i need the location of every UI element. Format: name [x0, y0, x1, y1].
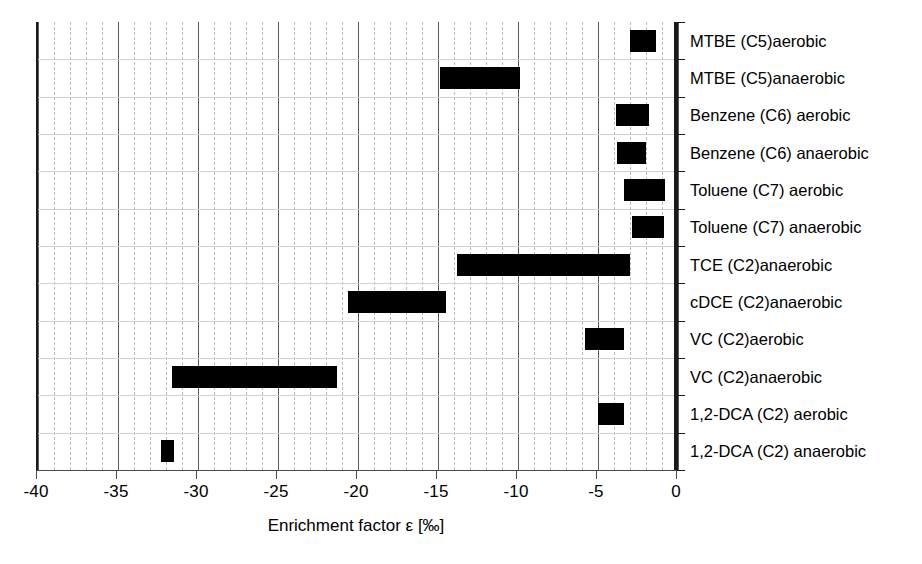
- right-axis-tick: [676, 246, 685, 247]
- x-axis-tick: [516, 470, 517, 479]
- plot-area: [36, 22, 676, 470]
- category-label: Benzene (C6) aerobic: [690, 107, 851, 124]
- x-axis-tick: [436, 470, 437, 479]
- right-axis-tick: [676, 321, 685, 322]
- right-axis-tick: [676, 395, 685, 396]
- right-axis-tick: [676, 433, 685, 434]
- x-axis-tick: [676, 470, 677, 479]
- right-axis-tick: [676, 22, 685, 23]
- x-axis-title: Enrichment factor ε [‰]: [36, 516, 676, 536]
- x-axis-tick-label: -35: [103, 482, 128, 502]
- category-label: Toluene (C7) anaerobic: [690, 219, 862, 236]
- right-axis-tick: [676, 134, 685, 135]
- x-axis-tick: [36, 470, 37, 479]
- x-axis-tick: [116, 470, 117, 479]
- right-axis-tick: [676, 283, 685, 284]
- x-axis-tick-label: -25: [263, 482, 288, 502]
- category-label: VC (C2)aerobic: [690, 331, 804, 348]
- right-axis-tick: [676, 59, 685, 60]
- x-axis-tick: [356, 470, 357, 479]
- x-axis-tick-label: -20: [343, 482, 368, 502]
- category-label: 1,2-DCA (C2) anaerobic: [690, 443, 866, 460]
- bar-range: [348, 291, 446, 313]
- right-axis-tick: [676, 209, 685, 210]
- x-axis-tick: [596, 470, 597, 479]
- bar-range: [585, 328, 623, 350]
- right-axis-tick: [676, 97, 685, 98]
- bar-range: [161, 440, 174, 462]
- category-label: 1,2-DCA (C2) aerobic: [690, 406, 848, 423]
- bar-range: [457, 254, 630, 276]
- right-axis-tick: [676, 470, 685, 471]
- bars-layer: [38, 22, 674, 470]
- x-axis-tick: [196, 470, 197, 479]
- x-axis-tick-label: -10: [503, 482, 528, 502]
- category-labels: MTBE (C5)aerobicMTBE (C5)anaerobicBenzen…: [690, 22, 922, 470]
- bar-range: [598, 403, 624, 425]
- x-axis-tick-label: -40: [23, 482, 48, 502]
- category-label: cDCE (C2)anaerobic: [690, 294, 842, 311]
- bar-range: [617, 142, 646, 164]
- category-label: MTBE (C5)anaerobic: [690, 70, 845, 87]
- x-axis-tick-label: -5: [588, 482, 604, 502]
- category-label: TCE (C2)anaerobic: [690, 257, 832, 274]
- bar-range: [616, 104, 650, 126]
- bar-range: [632, 216, 664, 238]
- category-label: MTBE (C5)aerobic: [690, 33, 827, 50]
- bar-range: [630, 30, 656, 52]
- x-axis-tick-label: -15: [423, 482, 448, 502]
- right-axis-tick: [676, 171, 685, 172]
- x-axis-tick-label: 0: [671, 482, 681, 502]
- enrichment-factor-chart: -40-35-30-25-20-15-10-50 Enrichment fact…: [0, 0, 922, 564]
- right-axis-tick: [676, 358, 685, 359]
- bar-range: [172, 366, 337, 388]
- x-axis-tick: [276, 470, 277, 479]
- category-label: Benzene (C6) anaerobic: [690, 145, 869, 162]
- category-label: Toluene (C7) aerobic: [690, 182, 843, 199]
- category-label: VC (C2)anaerobic: [690, 369, 822, 386]
- bar-range: [440, 67, 520, 89]
- bar-range: [624, 179, 666, 201]
- x-axis-tick-label: -30: [183, 482, 208, 502]
